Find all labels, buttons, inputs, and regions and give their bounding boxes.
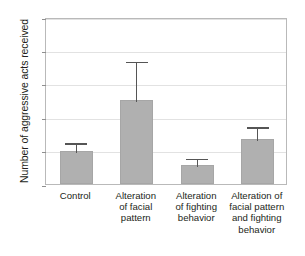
plot-area: 0510152025: [45, 18, 287, 185]
x-label-alteration-facial-pattern: Alterationof facialpattern: [106, 190, 167, 235]
error-bar-line-3: [257, 127, 258, 141]
error-bar-cap-2: [186, 159, 208, 161]
x-label-line: behavior: [167, 212, 226, 223]
error-bar-cap-3: [247, 127, 269, 129]
bar-0: [60, 151, 93, 184]
bar-chart-figure: Number of aggressive acts received 05101…: [0, 0, 305, 256]
x-label-line: Alteration: [167, 190, 226, 201]
error-bar-line-0: [76, 143, 77, 153]
error-bar-cap-1: [126, 62, 148, 64]
gridline-25: [46, 19, 286, 20]
gridline-15: [46, 85, 286, 86]
gridline-10: [46, 119, 286, 120]
x-label-line: and fighting: [228, 212, 287, 223]
x-label-line: Control: [46, 190, 105, 201]
y-tick-mark-5: [42, 152, 46, 153]
x-label-line: of fighting: [167, 201, 226, 212]
y-tick-mark-25: [42, 19, 46, 20]
gridline-20: [46, 52, 286, 53]
x-label-control: Control: [45, 190, 106, 235]
x-label-line: Alteration: [107, 190, 166, 201]
x-axis-labels: Control Alterationof facialpattern Alter…: [45, 190, 287, 235]
x-label-line: Alteration of: [228, 190, 287, 201]
x-label-line: behavior: [228, 224, 287, 235]
error-bar-line-1: [136, 62, 137, 102]
y-tick-mark-15: [42, 85, 46, 86]
x-label-alteration-fighting-behavior: Alterationof fightingbehavior: [166, 190, 227, 235]
x-label-line: facial pattern: [228, 201, 287, 212]
x-label-alteration-both: Alteration offacial patternand fightingb…: [227, 190, 288, 235]
y-tick-mark-0: [42, 186, 46, 187]
bar-1: [120, 100, 153, 184]
bar-3: [241, 139, 274, 184]
error-bar-cap-0: [65, 143, 87, 145]
y-tick-mark-10: [42, 119, 46, 120]
bar-2: [181, 165, 214, 184]
x-label-line: of facial: [107, 201, 166, 212]
y-tick-mark-20: [42, 52, 46, 53]
x-label-line: pattern: [107, 212, 166, 223]
y-axis-title: Number of aggressive acts received: [18, 11, 30, 191]
